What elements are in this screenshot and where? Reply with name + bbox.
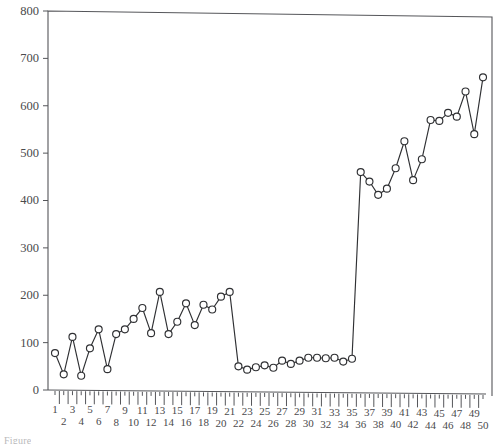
- x-axis-tick-label: 15: [172, 404, 184, 416]
- data-point-marker: [244, 366, 251, 373]
- x-axis-tick-label: 28: [285, 417, 297, 429]
- data-point-marker: [410, 177, 417, 184]
- data-point-marker: [401, 138, 408, 145]
- x-axis-tick-label: 42: [408, 418, 419, 430]
- x-axis-tick-label: 18: [198, 416, 210, 428]
- y-axis-tick-label: 200: [20, 288, 39, 302]
- data-point-marker: [279, 357, 286, 364]
- x-axis-tick-label: 48: [460, 419, 472, 431]
- y-axis-tick-label: 700: [20, 51, 39, 65]
- data-point-marker: [191, 322, 198, 329]
- data-point-marker: [69, 333, 76, 340]
- data-point-marker: [156, 288, 163, 295]
- x-axis-tick-label: 30: [303, 417, 315, 429]
- x-axis-tick-label: 34: [338, 418, 350, 430]
- data-point-marker: [235, 363, 242, 370]
- x-axis-tick-label: 7: [105, 403, 111, 415]
- x-axis-tick-label: 20: [215, 417, 227, 429]
- x-axis-tick-label: 40: [390, 418, 402, 430]
- y-axis-tick-label: 100: [20, 336, 39, 350]
- data-point-marker: [52, 350, 59, 357]
- x-axis-tick-label: 37: [364, 406, 376, 418]
- data-point-marker: [60, 371, 67, 378]
- series-line: [55, 77, 483, 375]
- x-axis-tick-label: 22: [233, 417, 244, 429]
- data-point-marker: [78, 372, 85, 379]
- x-axis-tick-label: 10: [128, 416, 140, 428]
- data-point-marker: [130, 315, 137, 322]
- x-axis-tick-label: 27: [277, 405, 289, 417]
- x-axis-tick-label: 31: [312, 405, 323, 417]
- y-axis-tick-label: 300: [20, 241, 39, 255]
- data-point-marker: [383, 185, 390, 192]
- x-axis-tick-label: 32: [320, 418, 331, 430]
- x-axis-tick-label: 25: [259, 405, 271, 417]
- x-axis-tick-label: 13: [154, 404, 166, 416]
- x-axis-tick-label: 36: [355, 418, 367, 430]
- x-axis-tick-label: 44: [425, 419, 437, 431]
- y-axis-tick-label: 800: [20, 4, 39, 18]
- x-axis-tick-label: 8: [113, 416, 119, 428]
- data-point-marker: [252, 364, 259, 371]
- data-point-marker: [462, 88, 469, 95]
- data-point-marker: [375, 191, 382, 198]
- y-axis-tick-label: 400: [20, 193, 39, 207]
- data-point-marker: [209, 306, 216, 313]
- x-axis-tick-label: 43: [416, 406, 428, 418]
- data-point-marker: [165, 331, 172, 338]
- data-point-marker: [418, 156, 425, 163]
- x-axis-tick-label: 39: [381, 406, 393, 418]
- data-point-marker: [104, 366, 111, 373]
- data-point-marker: [95, 326, 102, 333]
- x-axis-tick-label: 5: [87, 403, 93, 415]
- x-axis-tick-label: 16: [181, 416, 193, 428]
- x-axis-tick-label: 45: [434, 407, 446, 419]
- data-point-marker: [436, 117, 443, 124]
- data-point-marker: [121, 326, 128, 333]
- data-point-marker: [86, 345, 93, 352]
- data-point-marker: [480, 74, 487, 81]
- y-axis-tick-label: 600: [20, 99, 39, 113]
- data-point-marker: [261, 362, 268, 369]
- x-axis-tick-label: 3: [70, 403, 76, 415]
- data-point-marker: [270, 364, 277, 371]
- data-point-marker: [322, 355, 329, 362]
- data-point-marker: [314, 354, 321, 361]
- data-point-marker: [174, 318, 181, 325]
- data-point-marker: [453, 113, 460, 120]
- x-axis-tick-label: 46: [443, 419, 455, 431]
- x-axis-tick-label: 14: [163, 416, 175, 428]
- x-axis-tick-label: 2: [61, 415, 67, 427]
- x-axis-tick-label: 23: [242, 405, 254, 417]
- figure-caption: Figure: [4, 435, 31, 444]
- data-point-marker: [331, 354, 338, 361]
- x-axis-tick-label: 24: [250, 417, 262, 429]
- x-axis-tick-label: 35: [346, 406, 358, 418]
- data-point-marker: [296, 357, 303, 364]
- data-point-marker: [113, 331, 120, 338]
- x-axis-tick-label: 19: [207, 404, 219, 416]
- y-axis-tick-label: 0: [33, 383, 39, 397]
- x-axis-tick-label: 9: [122, 404, 128, 416]
- x-axis-tick-label: 1: [52, 403, 58, 415]
- x-axis-tick-label: 38: [373, 418, 385, 430]
- data-point-marker: [200, 301, 207, 308]
- data-point-marker: [183, 300, 190, 307]
- data-point-marker: [471, 131, 478, 138]
- x-axis-tick-label: 47: [451, 407, 463, 419]
- x-axis-tick-label: 29: [294, 405, 306, 417]
- x-axis-tick-label: 41: [399, 406, 410, 418]
- x-axis-tick-label: 50: [478, 419, 490, 431]
- chart-root: 0100200300400500600700800123456789101112…: [0, 0, 502, 444]
- data-point-marker: [348, 355, 355, 362]
- x-axis-tick-label: 49: [469, 407, 481, 419]
- x-axis-tick-label: 26: [268, 417, 280, 429]
- x-axis-tick-label: 21: [224, 405, 235, 417]
- line-chart-plot: 0100200300400500600700800123456789101112…: [0, 0, 502, 444]
- data-point-marker: [287, 360, 294, 367]
- data-point-marker: [226, 288, 233, 295]
- data-point-marker: [366, 178, 373, 185]
- data-point-marker: [357, 169, 364, 176]
- x-axis-tick-label: 17: [189, 404, 201, 416]
- x-axis-tick-label: 4: [78, 415, 84, 427]
